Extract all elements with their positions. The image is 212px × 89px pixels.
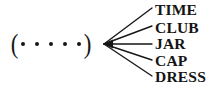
source-sequence-group: ( )	[8, 29, 94, 59]
branch-label-cap: CAP	[155, 53, 187, 69]
branch-label-club: CLUB	[155, 20, 199, 36]
branch-label-dress: DRESS	[155, 69, 206, 85]
branch-line	[104, 44, 152, 76]
branch-line	[104, 8, 152, 44]
sequence-dot	[77, 42, 81, 46]
arrowhead-icon	[104, 40, 113, 49]
branch-line-group	[104, 8, 152, 76]
dot-sequence	[21, 42, 81, 46]
branch-label-time: TIME	[155, 2, 197, 18]
sequence-dot	[63, 42, 67, 46]
branch-label-column: TIME CLUB JAR CAP DRESS	[155, 0, 212, 89]
fan-out-diagram: ( ) TIME CLUB JAR CAP DRESS	[0, 0, 212, 89]
branch-line	[104, 44, 152, 60]
branch-label-jar: JAR	[155, 36, 186, 52]
sequence-dot	[21, 42, 25, 46]
sequence-dot	[35, 42, 39, 46]
branch-line	[104, 26, 152, 44]
open-paren: (	[11, 31, 19, 58]
close-paren: )	[84, 31, 92, 58]
sequence-dot	[49, 42, 53, 46]
